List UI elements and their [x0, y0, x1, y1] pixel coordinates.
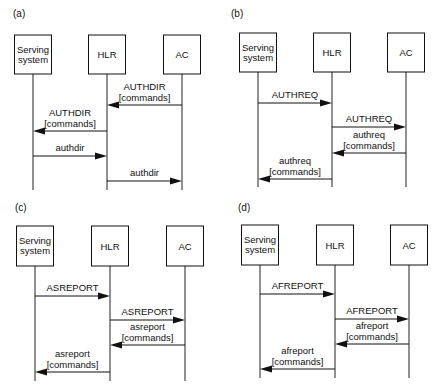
- message-label: AUTHDIR: [49, 107, 91, 118]
- message-label: asreport: [130, 321, 165, 332]
- arrowhead-icon: [260, 366, 272, 373]
- panel-d: (d)ServingsystemHLRACAFREPORTAFREPORTafr…: [238, 202, 428, 378]
- message-label: AFREPORT: [272, 280, 324, 291]
- entity-ac: AC: [391, 225, 428, 378]
- entity-ac: AC: [164, 35, 201, 190]
- entity-label: HLR: [325, 240, 344, 251]
- message-authreq-hlr-to-ac: AUTHREQ: [332, 113, 406, 131]
- entity-label: HLR: [97, 49, 116, 60]
- message-authreq-serving-system-to-hlr: AUTHREQ: [258, 89, 332, 107]
- message-label: AUTHREQ: [272, 89, 318, 100]
- entity-hlr: HLR: [89, 35, 126, 190]
- message-authreq-hlr-to-serving-system: authreq[commands]: [258, 155, 332, 183]
- arrowhead-icon: [98, 293, 110, 300]
- panel-b: (b)ServingsystemHLRACAUTHREQAUTHREQauthr…: [231, 8, 425, 187]
- message-afreport-ac-to-hlr: afreport[commands]: [335, 320, 409, 348]
- message-asreport-serving-system-to-hlr: ASREPORT: [35, 282, 110, 300]
- message-authdir-hlr-to-serving-system: AUTHDIR[commands]: [33, 107, 107, 135]
- entity-ac: AC: [167, 226, 204, 381]
- message-label: afreport: [281, 345, 314, 356]
- sequence-diagram-figure: (a)ServingsystemHLRACAUTHDIR[commands]AU…: [0, 0, 437, 388]
- entity-label: HLR: [322, 47, 341, 58]
- message-sublabel: [commands]: [269, 166, 321, 177]
- arrowhead-icon: [323, 291, 335, 298]
- entity-label: HLR: [100, 241, 119, 252]
- message-authdir-hlr-to-ac: authdir: [107, 167, 182, 185]
- entity-label: AC: [178, 241, 191, 252]
- message-sublabel: [commands]: [346, 331, 398, 342]
- message-sublabel: [commands]: [343, 140, 395, 151]
- panel-c: (c)ServingsystemHLRACASREPORTASREPORTasr…: [15, 202, 204, 381]
- arrowhead-icon: [35, 369, 47, 376]
- entity-serving-system: Servingsystem: [17, 226, 54, 381]
- message-label: afreport: [356, 320, 389, 331]
- message-asreport-ac-to-hlr: asreport[commands]: [110, 321, 185, 349]
- message-label: authreq: [279, 155, 311, 166]
- message-afreport-hlr-to-serving-system: afreport[commands]: [260, 345, 335, 373]
- entity-hlr: HLR: [92, 226, 129, 381]
- message-sublabel: [commands]: [44, 118, 96, 129]
- message-authdir-ac-to-hlr: AUTHDIR[commands]: [107, 81, 182, 109]
- arrowhead-icon: [397, 316, 409, 323]
- message-label: ASREPORT: [121, 306, 173, 317]
- arrowhead-icon: [110, 342, 122, 349]
- entity-serving-system: Servingsystem: [15, 35, 52, 190]
- arrowhead-icon: [95, 153, 107, 160]
- message-label: ASREPORT: [46, 282, 98, 293]
- entity-ac: AC: [388, 33, 425, 187]
- message-afreport-serving-system-to-hlr: AFREPORT: [260, 280, 335, 298]
- panel-label: (a): [13, 8, 25, 19]
- message-label: authreq: [353, 129, 385, 140]
- message-label: authdir: [55, 142, 84, 153]
- entity-label: system: [18, 54, 48, 65]
- panel-label: (b): [231, 8, 243, 19]
- message-authreq-ac-to-hlr: authreq[commands]: [332, 129, 406, 157]
- entity-label: AC: [402, 240, 415, 251]
- entity-label: system: [243, 52, 273, 63]
- message-asreport-hlr-to-serving-system: asreport[commands]: [35, 348, 110, 376]
- entity-label: system: [245, 244, 275, 255]
- panel-a: (a)ServingsystemHLRACAUTHDIR[commands]AU…: [13, 8, 201, 190]
- message-label: asreport: [55, 348, 90, 359]
- entity-label: AC: [175, 49, 188, 60]
- arrowhead-icon: [394, 124, 406, 131]
- arrowhead-icon: [320, 100, 332, 107]
- message-sublabel: [commands]: [47, 359, 99, 370]
- message-sublabel: [commands]: [122, 332, 174, 343]
- message-label: authdir: [130, 167, 159, 178]
- panel-label: (c): [15, 202, 27, 213]
- panel-label: (d): [238, 202, 250, 213]
- entity-label: system: [20, 245, 50, 256]
- message-sublabel: [commands]: [272, 356, 324, 367]
- message-label: AFREPORT: [346, 305, 398, 316]
- arrowhead-icon: [173, 317, 185, 324]
- arrowhead-icon: [170, 178, 182, 185]
- arrowhead-icon: [107, 102, 119, 109]
- message-label: AUTHDIR: [123, 81, 165, 92]
- message-label: AUTHREQ: [346, 113, 392, 124]
- message-authdir-serving-system-to-hlr: authdir: [33, 142, 107, 160]
- entity-serving-system: Servingsystem: [240, 33, 277, 187]
- entity-hlr: HLR: [314, 33, 351, 187]
- message-sublabel: [commands]: [119, 92, 171, 103]
- entity-label: AC: [399, 47, 412, 58]
